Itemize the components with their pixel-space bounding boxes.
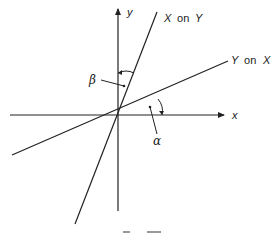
beta-label: β: [88, 73, 96, 87]
line-y-on-x: [12, 61, 228, 155]
alpha-pointer: [150, 107, 157, 134]
y-axis-label: y: [126, 6, 134, 18]
label-y-on-x-var2: X: [262, 54, 271, 66]
label-x-on-y-word: on: [177, 12, 189, 24]
beta-dot: [123, 85, 126, 88]
label-x-on-y: X on Y: [163, 12, 203, 24]
caption-fragment-1: [123, 231, 130, 233]
alpha-dot: [149, 106, 152, 109]
line-x-on-y: [75, 12, 157, 224]
label-y-on-x-word: on: [244, 54, 256, 66]
caption-fragment-2: [147, 231, 161, 233]
label-x-on-y-var2: Y: [195, 12, 203, 24]
label-x-on-y-var1: X: [163, 12, 172, 24]
x-axis-label: x: [231, 109, 238, 121]
alpha-label: α: [153, 134, 161, 148]
label-y-on-x: Y on X: [231, 54, 271, 66]
beta-pointer: [101, 80, 124, 86]
regression-diagram: y x X on Y Y on X β α: [0, 0, 277, 233]
label-y-on-x-var1: Y: [231, 54, 239, 66]
